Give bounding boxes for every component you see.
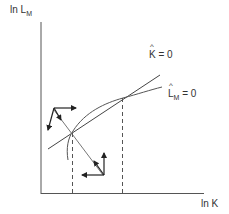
lm-hat-sub: M (174, 94, 180, 101)
lm-hat-symbol: L (168, 88, 174, 99)
y-axis-label-main: ln L (10, 4, 26, 15)
x-axis-label-text: ln K (201, 198, 218, 209)
k-hat-zero-line (48, 75, 160, 149)
lm-hat-zero-rest: = 0 (179, 88, 196, 99)
y-axis-label-sub: M (26, 10, 32, 17)
phase-diagram (0, 0, 229, 214)
lm-hat-zero-curve (67, 87, 162, 160)
k-hat-zero-rest: = 0 (156, 49, 173, 60)
y-axis-label: ln LM (10, 4, 32, 15)
lm-hat-zero-label: LM = 0 (168, 88, 196, 99)
k-hat-zero-label: K = 0 (149, 49, 173, 60)
x-axis-label: ln K (201, 198, 218, 209)
arrow-cluster-upper-left (48, 108, 76, 130)
k-hat-symbol: K (149, 49, 156, 60)
